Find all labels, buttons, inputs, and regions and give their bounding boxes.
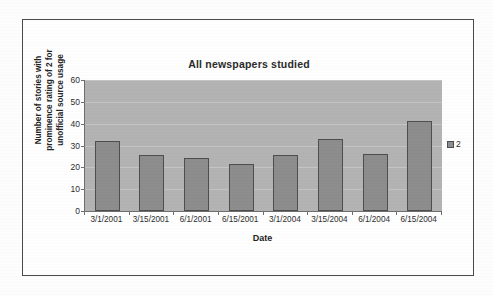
y-axis-title-line-1: Number of stories with [33, 56, 44, 145]
y-axis-tick-label: 50 [58, 97, 80, 107]
y-axis-tick-label: 10 [58, 184, 80, 194]
y-axis-tick-label: 40 [58, 119, 80, 129]
bar [229, 164, 254, 211]
bar [273, 155, 298, 211]
x-axis-tick-label: 6/15/2001 [218, 215, 263, 224]
y-axis-tick-label: 20 [58, 162, 80, 172]
gridline [85, 102, 442, 103]
plot-area [84, 80, 442, 212]
bar [184, 158, 209, 211]
x-axis-tick-mark [84, 211, 85, 215]
x-axis-tick-label: 3/1/2001 [84, 215, 129, 224]
chart-title: All newspapers studied [23, 58, 475, 70]
bar [363, 154, 388, 211]
gridline [85, 124, 442, 125]
chart-frame: All newspapers studied Number of stories… [22, 19, 474, 276]
y-axis-tick-label: 60 [58, 75, 80, 85]
x-axis-tick-label: 3/15/2004 [307, 215, 352, 224]
x-axis-tick-label: 6/15/2004 [396, 215, 441, 224]
y-axis-title-line-2: prominence rating of 2 for [44, 49, 55, 150]
legend: 2 [447, 139, 461, 149]
x-axis-title: Date [84, 233, 441, 243]
x-axis-tick-label: 6/1/2001 [173, 215, 218, 224]
legend-swatch-icon [447, 141, 454, 148]
y-axis-tick-label: 0 [58, 206, 80, 216]
bar [139, 155, 164, 211]
x-axis-tick-mark [441, 211, 442, 215]
gridline [85, 80, 442, 81]
bar [318, 139, 343, 211]
bar [95, 141, 120, 211]
bar [407, 121, 432, 211]
legend-label: 2 [456, 139, 461, 149]
chart-screenshot: All newspapers studied Number of stories… [0, 0, 493, 296]
x-axis-tick-label: 3/1/2004 [263, 215, 308, 224]
x-axis-tick-label: 6/1/2004 [352, 215, 397, 224]
y-axis-tick-label: 30 [58, 141, 80, 151]
gridline [85, 146, 442, 147]
x-axis-tick-label: 3/15/2001 [129, 215, 174, 224]
x-axis-tick-labels: 3/1/20013/15/20016/1/20016/15/20013/1/20… [84, 215, 441, 229]
y-axis-tick-labels: 0102030405060 [56, 80, 80, 211]
